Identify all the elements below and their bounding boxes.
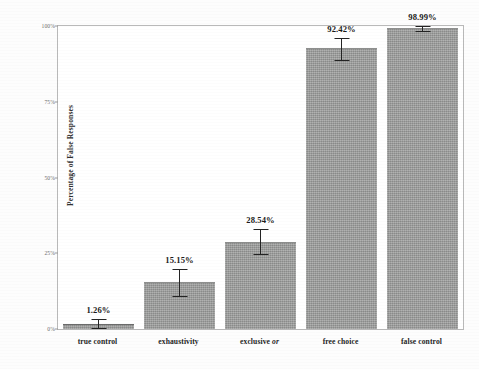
y-tick-mark (55, 26, 58, 27)
bar-value-label: 1.26% (86, 305, 110, 315)
error-bar-cap-top (334, 38, 349, 39)
error-bar (334, 38, 349, 60)
y-tick-label: 100% (42, 23, 55, 29)
y-tick-label: 75% (44, 99, 55, 105)
bar-group[interactable]: 92.42% (306, 26, 377, 329)
bar[interactable] (306, 48, 377, 329)
error-bar-cap-bottom (172, 296, 187, 297)
bar-value-label: 98.99% (408, 12, 437, 22)
y-tick-mark (55, 101, 58, 102)
error-bar (253, 229, 268, 256)
error-bar-cap-top (172, 269, 187, 270)
bar-group[interactable]: 15.15% (144, 26, 215, 329)
y-tick-label: 0% (47, 326, 55, 332)
plot-area: Percentage of False Responses 0%25%50%75… (57, 25, 464, 330)
bar-value-label: 28.54% (246, 215, 275, 225)
y-tick-label: 25% (44, 250, 55, 256)
x-axis-label: exhaustivity (138, 337, 219, 346)
x-axis-label: exclusive or (219, 337, 300, 346)
error-bar (91, 319, 106, 328)
error-bar-cap-bottom (415, 31, 430, 32)
error-bar (415, 26, 430, 32)
bar-group[interactable]: 28.54% (225, 26, 296, 329)
bar-value-label: 15.15% (165, 255, 194, 265)
error-bar-cap-bottom (91, 328, 106, 329)
y-tick-mark (55, 329, 58, 330)
error-bar-cap-top (415, 26, 430, 27)
bar-group[interactable]: 98.99% (387, 26, 458, 329)
bar-value-label: 92.42% (327, 24, 356, 34)
y-tick-mark (55, 177, 58, 178)
error-bar-cap-top (253, 229, 268, 230)
error-bar-stem (260, 229, 261, 256)
error-bar-cap-top (91, 319, 106, 320)
error-bar-cap-bottom (334, 60, 349, 61)
error-bar-cap-bottom (253, 254, 268, 255)
x-axis-label: free choice (300, 337, 381, 346)
error-bar-stem (341, 38, 342, 60)
y-tick-mark (55, 253, 58, 254)
error-bar-stem (179, 269, 180, 297)
bar[interactable] (387, 28, 458, 329)
error-bar (172, 269, 187, 297)
figure-canvas: Percentage of False Responses 0%25%50%75… (0, 0, 479, 369)
x-axis-label: false control (381, 337, 462, 346)
bar-group[interactable]: 1.26% (63, 26, 134, 329)
y-tick-label: 50% (44, 175, 55, 181)
x-axis-label: true control (57, 337, 138, 346)
